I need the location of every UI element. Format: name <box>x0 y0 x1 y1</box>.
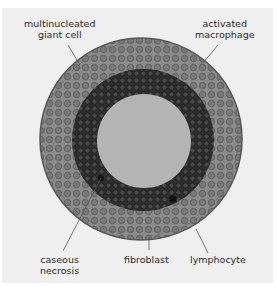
label-line-2: giant cell <box>24 29 95 40</box>
label-line-1: multinucleated <box>24 18 95 29</box>
label-line-1: caseous <box>40 254 79 265</box>
leader-macrophage <box>203 45 218 63</box>
leader-giant-cell <box>68 45 80 65</box>
label-line-2: macrophage <box>195 29 255 40</box>
label-lymphocyte: lymphocyte <box>190 254 246 265</box>
label-caseous-necrosis: caseous necrosis <box>40 254 79 276</box>
label-activated-macrophage: activated macrophage <box>195 18 255 40</box>
label-line-1: activated <box>195 18 255 29</box>
leader-lymphocyte <box>196 229 208 253</box>
label-fibroblast: fibroblast <box>124 254 169 265</box>
label-line-2: necrosis <box>40 265 79 276</box>
label-multinucleated-giant-cell: multinucleated giant cell <box>24 18 95 40</box>
